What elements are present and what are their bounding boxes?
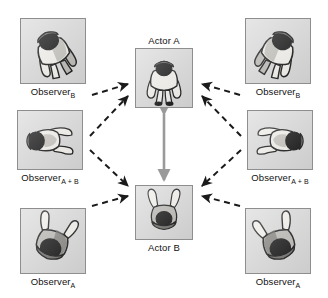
node-observer-a-left[interactable]: ObserverA [20, 208, 86, 274]
observer-photo-frame [20, 18, 86, 84]
dashed-arrow-observer-ab-left-to-actor-a [90, 96, 128, 136]
dashed-arrow-observer-ab-left-to-actor-b [90, 150, 128, 186]
dashed-arrow-observer-ab-right-to-actor-b [202, 150, 241, 186]
caption-observer-ab-left: ObserverA + B [21, 172, 78, 185]
observer-photo-frame [245, 208, 311, 274]
caption-observer-ab-right: ObserverA + B [251, 172, 308, 185]
caption-subscript: B [71, 92, 76, 99]
dashed-arrow-observer-a-right-to-actor-b [202, 196, 240, 206]
caption-subscript: A + B [291, 178, 308, 185]
caption-subscript: A + B [61, 178, 78, 185]
caption-text: Observer [21, 172, 61, 183]
caption-subscript: A [296, 282, 301, 289]
observer-photo-frame [20, 208, 86, 274]
node-observer-ab-right[interactable]: ObserverA + B [247, 110, 313, 170]
caption-subscript: A [71, 282, 76, 289]
node-observer-b-left[interactable]: ObserverB [20, 18, 86, 84]
node-observer-ab-left[interactable]: ObserverA + B [17, 110, 83, 170]
caption-text: Observer [256, 86, 296, 97]
caption-text: Observer [31, 86, 71, 97]
caption-text: Observer [31, 276, 71, 287]
caption-text: Observer [251, 172, 291, 183]
dashed-arrow-observer-a-left-to-actor-b [92, 196, 128, 206]
dashed-arrow-observer-b-right-to-actor-a [202, 84, 240, 95]
dashed-arrow-observer-ab-right-to-actor-a [202, 96, 241, 136]
caption-actor-b: Actor B [148, 242, 180, 253]
caption-observer-a-right: ObserverA [256, 276, 301, 289]
caption-actor-a: Actor A [148, 35, 179, 46]
caption-observer-a-left: ObserverA [31, 276, 76, 289]
caption-text: Observer [256, 276, 296, 287]
caption-observer-b-right: ObserverB [256, 86, 301, 99]
actor-photo-frame [135, 48, 193, 108]
node-observer-a-right[interactable]: ObserverA [245, 208, 311, 274]
actor-photo-frame [135, 185, 193, 240]
node-observer-b-right[interactable]: ObserverB [245, 18, 311, 84]
dashed-arrow-observer-b-left-to-actor-a [92, 84, 128, 95]
node-actor-a[interactable]: Actor A [135, 48, 193, 108]
diagram-canvas: ObserverB ObserverA + B ObserverA [0, 0, 328, 298]
node-actor-b[interactable]: Actor B [135, 185, 193, 240]
caption-text: Actor B [148, 242, 180, 253]
caption-subscript: B [296, 92, 301, 99]
caption-observer-b-left: ObserverB [31, 86, 76, 99]
caption-text: Actor A [148, 35, 179, 46]
observer-photo-frame [17, 110, 83, 170]
observer-photo-frame [245, 18, 311, 84]
observer-photo-frame [247, 110, 313, 170]
